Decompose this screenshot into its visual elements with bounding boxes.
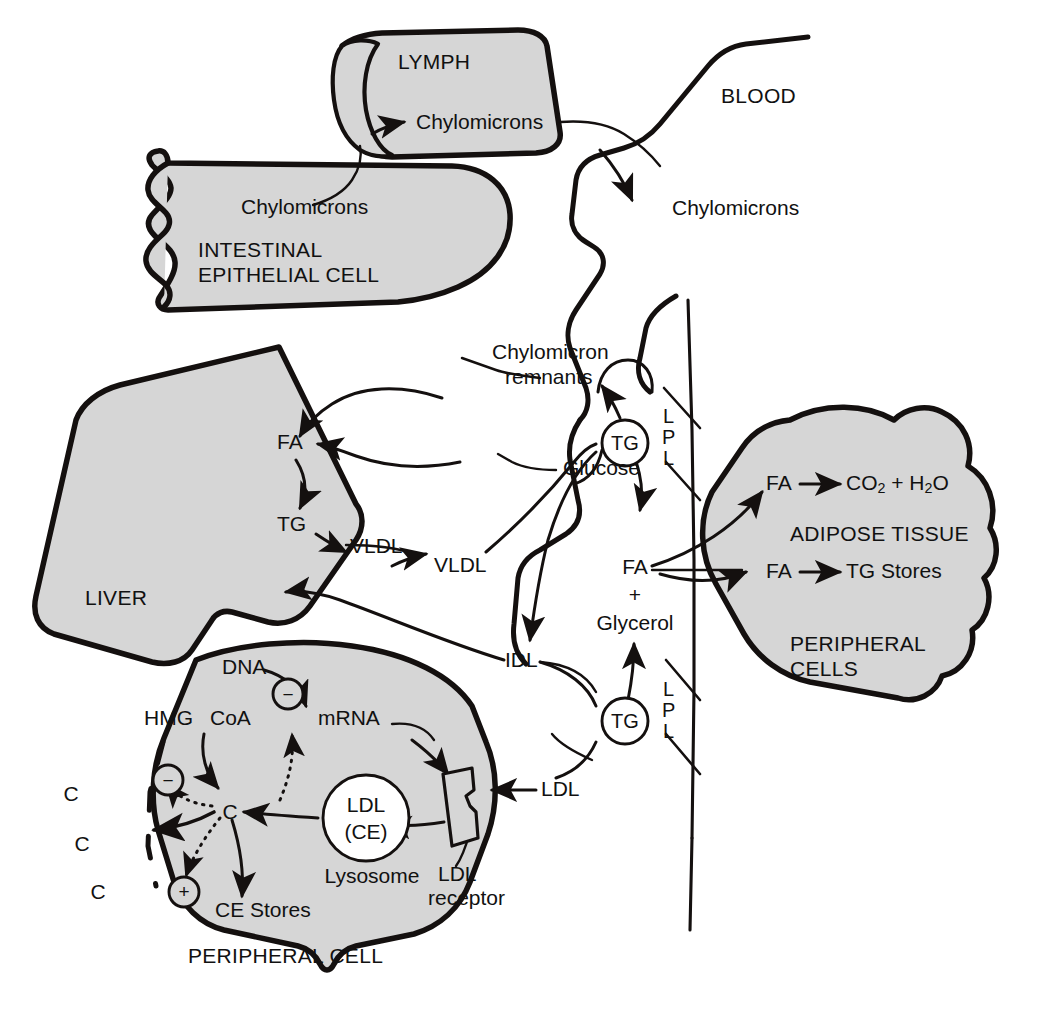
label-liver-tg: TG <box>277 512 306 536</box>
label-membrane-c-1: C <box>63 782 78 806</box>
leader-glucose <box>498 454 556 470</box>
lpl-upper-l2: L <box>662 448 675 469</box>
label-liver: LIVER <box>85 586 147 610</box>
label-lpl-lower: L P L <box>662 679 675 742</box>
label-muscle-products: CO2 + H2O <box>846 471 949 496</box>
label-coa: CoA <box>210 706 251 730</box>
label-ldl-particle-line1: LDL <box>347 793 386 817</box>
label-idl: IDL <box>505 648 538 672</box>
label-minus-hmg: − <box>162 770 173 791</box>
label-chylomicron-remnants-line1: Chylomicron <box>492 340 609 364</box>
label-plus-blood: + <box>629 583 641 607</box>
arrow-tg-to-idl <box>530 452 596 640</box>
label-chylomicrons-intestine: Chylomicrons <box>241 195 368 219</box>
diagram-canvas: LYMPH BLOOD Chylomicrons Chylomicrons Ch… <box>0 0 1047 1028</box>
label-blood-vldl: VLDL <box>434 553 487 577</box>
label-ldl: LDL <box>541 777 580 801</box>
lpl-lower-l2: L <box>662 721 675 742</box>
label-tg-upper: TG <box>611 432 639 454</box>
label-lpl-upper: L P L <box>662 406 675 469</box>
blood-vessel-inner-right <box>638 296 676 392</box>
label-chylomicron-remnants-line2: remnants <box>505 365 593 389</box>
label-liver-fa: FA <box>277 430 303 454</box>
label-adipose: ADIPOSE TISSUE <box>790 522 969 546</box>
arrow-remnants-up <box>602 386 620 418</box>
label-adipose-products: TG Stores <box>846 559 942 583</box>
label-intestinal-cell-line2: EPITHELIAL CELL <box>198 263 379 287</box>
label-ldl-particle-line2: (CE) <box>344 820 387 844</box>
label-peripheral-cell: PERIPHERAL CELL <box>188 944 383 968</box>
label-membrane-c-3: C <box>90 880 105 904</box>
label-minus-dna: − <box>282 684 293 705</box>
arrow-chylomicrons-blood <box>600 150 632 200</box>
lpl-lower-p: P <box>662 700 675 721</box>
label-ce-stores: CE Stores <box>215 898 311 922</box>
label-dna: DNA <box>222 655 266 679</box>
label-chylomicrons-lymph: Chylomicrons <box>416 110 543 134</box>
lpl-lower-l1: L <box>662 679 675 700</box>
label-intestinal-cell-line1: INTESTINAL <box>198 238 322 262</box>
leader-idl-ldl <box>540 662 596 692</box>
arrow-tg-lower-to-glycerol <box>628 644 634 700</box>
label-mrna: mRNA <box>318 706 380 730</box>
label-membrane-c-2: C <box>74 832 89 856</box>
label-glycerol: Glycerol <box>596 611 673 635</box>
label-hmg: HMG <box>144 706 193 730</box>
label-ldl-receptor-line2: receptor <box>428 886 505 910</box>
label-plus-ce: + <box>178 881 189 902</box>
label-glucose: Glucose <box>563 456 640 480</box>
arrow-glucose-to-fa <box>318 444 460 466</box>
leader-chylomicrons-lymph <box>560 122 660 167</box>
label-lymph: LYMPH <box>398 50 470 74</box>
label-lysosome: Lysosome <box>325 864 420 888</box>
label-cholesterol-c: C <box>222 800 237 824</box>
liver-shape <box>35 347 362 664</box>
lpl-upper-p: P <box>662 427 675 448</box>
diagram-artwork <box>0 0 1047 1028</box>
label-peripheral-cells-line1: PERIPHERAL <box>790 632 926 656</box>
capillary-wall-right-lower <box>690 838 692 930</box>
lpl-upper-l1: L <box>662 406 675 427</box>
label-adipose-fa: FA <box>766 559 792 583</box>
label-muscle-fa: FA <box>766 471 792 495</box>
peripheral-cells-shape <box>703 407 997 700</box>
label-blood: BLOOD <box>721 84 796 108</box>
label-chylomicrons-blood: Chylomicrons <box>672 196 799 220</box>
label-fa-blood: FA <box>622 555 648 579</box>
peripheral-cell-shape <box>148 642 495 970</box>
label-peripheral-cells-line2: CELLS <box>790 657 858 681</box>
lysosome-circle <box>323 775 409 861</box>
label-liver-vldl: VLDL <box>350 534 403 558</box>
label-tg-lower: TG <box>611 710 639 732</box>
label-ldl-receptor-line1: LDL <box>438 862 477 886</box>
